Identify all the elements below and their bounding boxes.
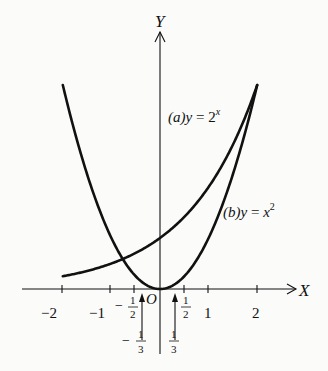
svg-text:2: 2 [183,308,189,320]
series-b-label: (b)y = x2 [223,201,275,221]
tick-label-1: 1 [204,305,212,321]
tick-label-2: 2 [252,305,260,321]
svg-text:1: 1 [183,294,189,306]
svg-text:−: − [115,298,123,313]
arrow-up-icon [139,293,145,302]
graph-figure: Y X O −2 −1 1 2 − 1 2 1 2 − 1 3 1 3 (a)y… [0,0,328,371]
svg-text:1: 1 [130,294,136,306]
tick-label-half: 1 2 [181,294,191,320]
tick-label-minus-1: −1 [89,305,105,321]
svg-text:3: 3 [171,343,177,355]
svg-text:3: 3 [138,343,144,355]
svg-text:2: 2 [130,308,136,320]
svg-text:−: − [122,333,130,348]
svg-text:1: 1 [171,328,177,340]
tick-label-minus-half: − 1 2 [115,294,138,320]
tick-label-minus-2: −2 [41,305,57,321]
series-a-label: (a)y = 2x [168,106,221,126]
x-axis-label: X [298,281,310,300]
svg-text:1: 1 [138,328,144,340]
y-axis-label: Y [155,12,166,31]
origin-label: O [146,291,157,307]
arrow-up-icon [172,293,178,302]
marker-label-third: 1 3 [169,328,179,355]
marker-label-minus-third: − 1 3 [122,328,146,355]
